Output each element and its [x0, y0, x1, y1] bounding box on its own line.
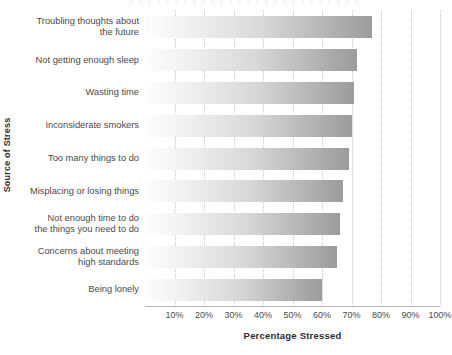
bar-row: [145, 240, 440, 273]
bar: [145, 16, 372, 38]
bar-row: [145, 142, 440, 175]
category-label-text: Too many things to do: [48, 153, 139, 164]
category-label: Not getting enough sleep: [14, 44, 144, 77]
x-axis-tick-label: 70%: [342, 310, 360, 320]
clipped-title-artifact: [130, 0, 360, 5]
category-label: Troubling thoughts aboutthe future: [14, 11, 144, 44]
y-axis-title: Source of Stress: [0, 0, 14, 310]
bar-row: [145, 175, 440, 208]
category-label: Misplacing or losing things: [14, 175, 144, 208]
bar: [145, 49, 357, 71]
category-label-text: Inconsiderate smokers: [45, 120, 139, 131]
x-axis-tick-label: 60%: [313, 310, 331, 320]
bar: [145, 213, 340, 235]
category-label: Not enough time to dothe things you need…: [14, 208, 144, 241]
category-label-text: Being lonely: [88, 284, 139, 295]
x-axis-tick-label: 20%: [195, 310, 213, 320]
x-axis-tick-label: 30%: [224, 310, 242, 320]
bar: [145, 180, 343, 202]
bar: [145, 115, 352, 137]
bar: [145, 82, 354, 104]
bar: [145, 279, 322, 301]
x-axis-tick-label: 10%: [165, 310, 183, 320]
gridline: [440, 11, 441, 306]
x-axis-title: Percentage Stressed: [145, 330, 440, 341]
category-label: Too many things to do: [14, 142, 144, 175]
bar-row: [145, 208, 440, 241]
bar: [145, 148, 349, 170]
bar-row: [145, 77, 440, 110]
x-axis-tick-label: 50%: [283, 310, 301, 320]
bar-row: [145, 273, 440, 306]
category-label-text: Wasting time: [86, 87, 139, 98]
category-label-text: Troubling thoughts aboutthe future: [36, 16, 139, 38]
category-label-text: Not enough time to dothe things you need…: [35, 213, 139, 235]
x-axis-tick-labels: 10%20%30%40%50%60%70%80%90%100%: [145, 310, 440, 324]
x-axis-tick-label: 40%: [254, 310, 272, 320]
category-label: Concerns about meetinghigh standards: [14, 240, 144, 273]
category-label: Wasting time: [14, 77, 144, 110]
category-label-text: Not getting enough sleep: [36, 55, 139, 66]
x-axis-tick-label: 80%: [372, 310, 390, 320]
y-axis-title-text: Source of Stress: [2, 118, 12, 193]
category-label-text: Concerns about meetinghigh standards: [38, 246, 139, 268]
category-label: Inconsiderate smokers: [14, 109, 144, 142]
category-label-list: Troubling thoughts aboutthe futureNot ge…: [14, 11, 144, 306]
category-label-text: Misplacing or losing things: [30, 186, 139, 197]
bars-layer: [145, 11, 440, 306]
plot-area: [145, 11, 440, 307]
x-axis-tick-label: 100%: [428, 310, 451, 320]
bar-row: [145, 109, 440, 142]
bar-row: [145, 44, 440, 77]
x-axis-tick-label: 90%: [401, 310, 419, 320]
bar: [145, 246, 337, 268]
category-label: Being lonely: [14, 273, 144, 306]
bar-row: [145, 11, 440, 44]
